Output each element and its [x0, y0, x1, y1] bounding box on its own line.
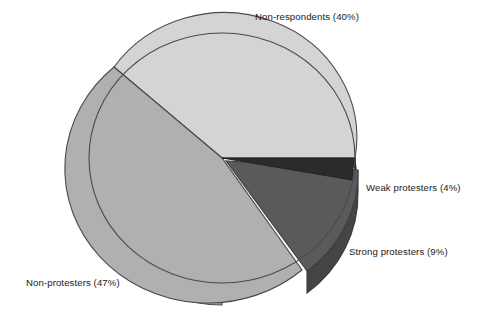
label-weak-protesters: Weak protesters (4%) — [366, 182, 461, 193]
label-strong-protesters: Strong protesters (9%) — [349, 246, 448, 257]
pie-chart-figure: Non-respondents (40%) Weak protesters (4… — [0, 0, 492, 328]
label-non-protesters: Non-protesters (47%) — [26, 277, 120, 288]
label-non-respondents: Non-respondents (40%) — [255, 11, 359, 22]
